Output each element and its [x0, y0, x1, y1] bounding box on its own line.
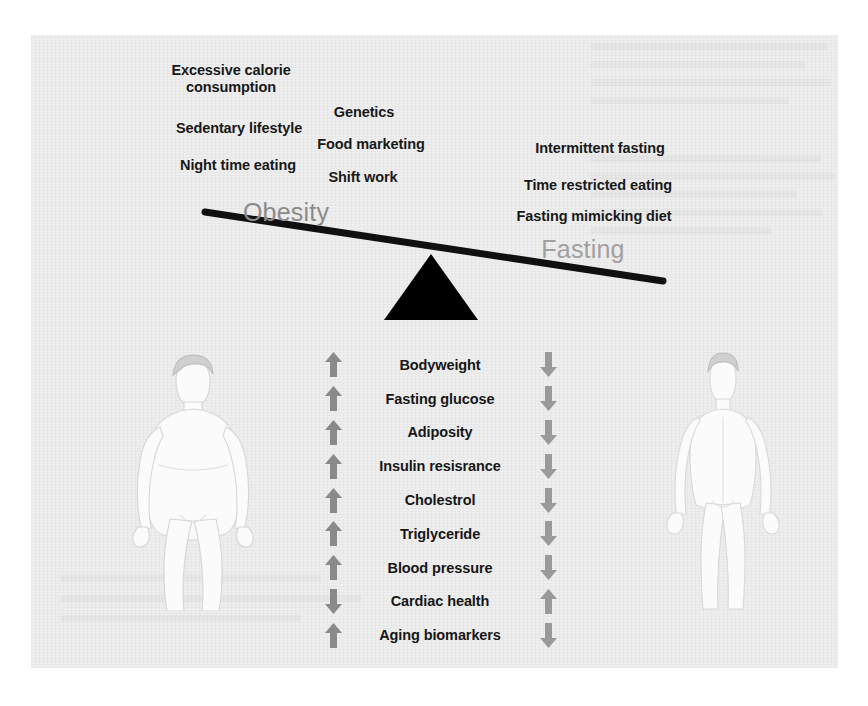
arrow-down-icon: [539, 385, 558, 412]
obesity-cause-label-2: Sedentary lifestyle: [176, 120, 302, 137]
biomarker-label: Cardiac health: [391, 593, 490, 609]
biomarker-row: Fasting glucose: [300, 382, 580, 416]
fasting-down-arrow-icon: [539, 385, 558, 412]
biomarker-row: Cardiac health: [300, 585, 580, 619]
obesity-cause-label-3: Food marketing: [317, 136, 424, 153]
obesity-cause-label-5: Shift work: [328, 169, 397, 186]
biomarker-list: BodyweightFasting glucoseAdiposityInsuli…: [300, 348, 580, 652]
fasting-intervention-label-0: Intermittent fasting: [535, 140, 664, 157]
obesity-cause-label-4: Night time eating: [180, 157, 296, 174]
biomarker-row: Aging biomarkers: [300, 618, 580, 652]
obesity-up-arrow-icon: [324, 520, 343, 547]
obesity-cause-label-1: Genetics: [334, 104, 394, 121]
biomarker-label: Aging biomarkers: [379, 627, 501, 643]
obesity-up-arrow-icon: [324, 554, 343, 581]
obesity-up-arrow-icon: [324, 622, 343, 649]
fasting-down-arrow-icon: [539, 520, 558, 547]
arrow-up-icon: [324, 385, 343, 412]
arrow-up-icon: [324, 520, 343, 547]
biomarker-row: Blood pressure: [300, 551, 580, 585]
fasting-down-arrow-icon: [539, 622, 558, 649]
arrow-up-icon: [324, 554, 343, 581]
fasting-side-title: Fasting: [541, 235, 624, 264]
obesity-up-arrow-icon: [324, 419, 343, 446]
biomarker-row: Insulin resisrance: [300, 449, 580, 483]
fasting-down-arrow-icon: [539, 453, 558, 480]
arrow-down-icon: [539, 622, 558, 649]
arrow-up-icon: [324, 351, 343, 378]
arrow-up-icon: [324, 622, 343, 649]
arrow-down-icon: [539, 554, 558, 581]
biomarker-row: Bodyweight: [300, 348, 580, 382]
arrow-up-icon: [539, 588, 558, 615]
biomarker-row: Cholestrol: [300, 483, 580, 517]
arrow-down-icon: [539, 419, 558, 446]
fasting-up-arrow-icon: [539, 588, 558, 615]
obesity-up-arrow-icon: [324, 487, 343, 514]
fasting-down-arrow-icon: [539, 487, 558, 514]
fasting-intervention-label-2: Fasting mimicking diet: [517, 208, 672, 225]
triangle-fulcrum-icon: [384, 254, 478, 320]
biomarker-label: Fasting glucose: [386, 391, 495, 407]
arrow-up-icon: [324, 487, 343, 514]
fasting-down-arrow-icon: [539, 419, 558, 446]
lean-body-silhouette: [648, 345, 798, 611]
obesity-up-arrow-icon: [324, 351, 343, 378]
figure-root: Obesity Fasting Excessive calorie consum…: [0, 0, 868, 706]
arrow-down-icon: [539, 453, 558, 480]
obese-body-silhouette: [118, 347, 268, 611]
biomarker-row: Adiposity: [300, 416, 580, 450]
obesity-up-arrow-icon: [324, 385, 343, 412]
arrow-up-icon: [324, 419, 343, 446]
figure-stage: Obesity Fasting Excessive calorie consum…: [0, 0, 868, 706]
biomarker-label: Bodyweight: [399, 357, 480, 373]
obesity-down-arrow-icon: [324, 588, 343, 615]
arrow-down-icon: [324, 588, 343, 615]
biomarker-label: Triglyceride: [400, 526, 480, 542]
arrow-down-icon: [539, 520, 558, 547]
obesity-side-title: Obesity: [243, 198, 329, 227]
biomarker-label: Adiposity: [407, 424, 472, 440]
fasting-down-arrow-icon: [539, 351, 558, 378]
arrow-down-icon: [539, 351, 558, 378]
biomarker-label: Blood pressure: [388, 560, 493, 576]
fasting-down-arrow-icon: [539, 554, 558, 581]
biomarker-label: Cholestrol: [405, 492, 476, 508]
obesity-up-arrow-icon: [324, 453, 343, 480]
biomarker-label: Insulin resisrance: [379, 458, 501, 474]
biomarker-row: Triglyceride: [300, 517, 580, 551]
obesity-cause-label-0: Excessive calorie consumption: [171, 62, 290, 96]
arrow-up-icon: [324, 453, 343, 480]
arrow-down-icon: [539, 487, 558, 514]
fasting-intervention-label-1: Time restricted eating: [524, 177, 672, 194]
